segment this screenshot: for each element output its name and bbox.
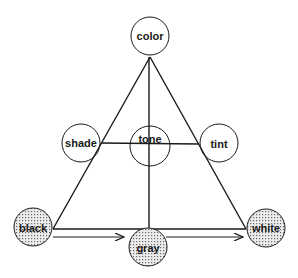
node-white: white [247, 209, 285, 247]
node-tone-label: tone [138, 133, 161, 145]
node-tint-label: tint [210, 138, 227, 150]
color-triangle-diagram: color shade tone tint black gray white [0, 0, 298, 278]
node-gray-label: gray [136, 242, 160, 254]
node-tone: tone [130, 126, 170, 166]
node-color: color [131, 17, 169, 55]
node-color-label: color [137, 30, 165, 42]
node-shade-label: shade [65, 137, 97, 149]
node-gray: gray [129, 228, 167, 266]
node-white-label: white [251, 222, 280, 234]
node-black: black [14, 208, 52, 246]
node-tint: tint [200, 124, 238, 162]
node-shade: shade [62, 124, 100, 162]
node-black-label: black [19, 222, 48, 234]
